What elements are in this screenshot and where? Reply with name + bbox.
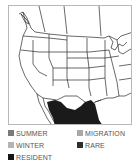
map-legend: SUMMER MIGRATION WINTER RARE RESIDENT — [8, 128, 137, 166]
winter-swatch-icon — [8, 142, 14, 148]
legend-item-migration: MIGRATION — [77, 128, 125, 138]
rare-swatch-icon — [77, 142, 83, 148]
legend-item-resident: RESIDENT — [8, 152, 52, 162]
legend-label: SUMMER — [16, 130, 48, 137]
summer-swatch-icon — [8, 130, 14, 136]
legend-label: RARE — [85, 142, 105, 149]
legend-label: RESIDENT — [16, 154, 52, 161]
migration-swatch-icon — [77, 130, 83, 136]
legend-item-winter: WINTER — [8, 140, 44, 150]
legend-item-rare: RARE — [77, 140, 105, 150]
legend-label: WINTER — [16, 142, 44, 149]
legend-label: MIGRATION — [85, 130, 125, 137]
resident-swatch-icon — [8, 154, 14, 160]
legend-item-summer: SUMMER — [8, 128, 48, 138]
north-america-map — [9, 6, 132, 125]
range-map — [8, 5, 132, 125]
resident-range — [47, 100, 103, 125]
